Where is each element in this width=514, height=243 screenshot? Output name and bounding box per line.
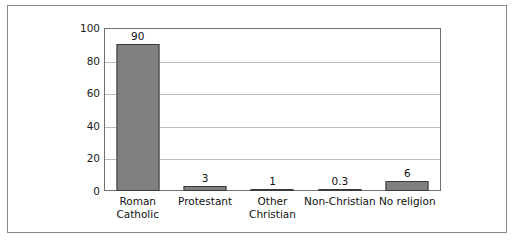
x-axis-category-labels: Roman Catholic Protestant Other Christia…	[104, 195, 441, 235]
y-tick-label-40: 40	[60, 121, 100, 131]
y-tick-label-20: 20	[60, 153, 100, 163]
x-label-line2: Christian	[233, 208, 313, 221]
bar-value-non-christian: 0.3	[332, 176, 349, 187]
y-tick-label-0: 0	[60, 186, 100, 196]
bar-roman-catholic[interactable]	[116, 44, 159, 191]
bar-no-religion[interactable]	[386, 181, 429, 191]
y-tick-label-80: 80	[60, 56, 100, 66]
bar-value-protestant: 3	[202, 173, 209, 184]
bar-value-roman-catholic: 90	[131, 31, 144, 42]
y-tick-label-100: 100	[60, 23, 100, 33]
x-label-line2: Catholic	[98, 208, 178, 221]
figure-frame: 0 20 40 60 80 100 90 3 1 0.3 6	[7, 5, 507, 233]
bar-value-no-religion: 6	[404, 168, 411, 179]
bar-series: 90 3 1 0.3 6	[104, 28, 441, 191]
bar-other-christian[interactable]	[251, 189, 294, 191]
bar-value-other-christian: 1	[269, 176, 276, 187]
x-label-no-religion: No religion	[367, 195, 447, 208]
bar-non-christian[interactable]	[318, 189, 361, 191]
x-label-line1: No religion	[367, 195, 447, 208]
bar-protestant[interactable]	[184, 186, 227, 191]
y-axis-tick-labels: 0 20 40 60 80 100	[56, 28, 100, 191]
y-tick-label-60: 60	[60, 88, 100, 98]
